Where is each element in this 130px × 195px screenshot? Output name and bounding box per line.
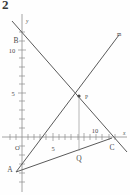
segment-ac [16,138,112,172]
point-label-P: P [85,94,88,100]
figure-container: 2 [0,0,130,195]
y-tick-label-5: 5 [11,90,14,97]
line-bc [12,21,127,152]
x-axis-label: x [122,130,126,136]
y-tick-label-10: 10 [9,47,16,54]
origin-label: O [15,144,20,151]
line-m [16,35,119,172]
y-axis-label: y [25,18,29,24]
point-label-A: A [7,165,13,174]
coordinate-plot: B A C P Q m y x O 5 10 5 10 [0,0,130,195]
x-tick-label-5: 5 [51,145,54,152]
line-label-m: m [117,31,122,37]
point-label-C: C [109,143,114,152]
x-tick-label-10: 10 [92,127,99,134]
point-label-Q: Q [76,154,82,163]
point-P-marker [77,94,80,97]
point-label-B: B [13,36,18,45]
